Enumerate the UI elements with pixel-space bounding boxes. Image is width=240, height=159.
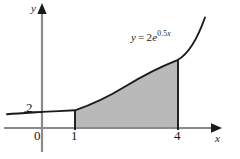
y-axis-arrowhead bbox=[37, 3, 46, 14]
equation-exponent-variable: x bbox=[167, 29, 171, 38]
equation-equals: = bbox=[136, 31, 146, 43]
x-tick-label-4: 4 bbox=[174, 128, 181, 144]
x-axis-label: x bbox=[215, 132, 220, 144]
origin-tick-label: 0 bbox=[34, 128, 41, 144]
equation-exponent-number: 0.5 bbox=[157, 29, 167, 38]
x-tick-label-1: 1 bbox=[71, 128, 78, 144]
curve-equation-label: y=2e0.5x bbox=[131, 31, 171, 43]
equation-exponent: 0.5x bbox=[157, 29, 171, 38]
y-tick-label-2: 2 bbox=[26, 100, 33, 116]
figure-container: y x 0 1 4 2 y=2e0.5x bbox=[0, 0, 240, 159]
shaded-area-region bbox=[75, 60, 178, 128]
y-axis-label: y bbox=[31, 2, 36, 14]
